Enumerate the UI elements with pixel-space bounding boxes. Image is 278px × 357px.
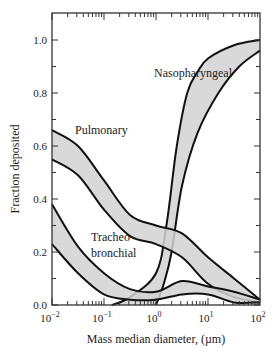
x-axis-label: Mass median diameter, (µm) — [87, 332, 225, 346]
annotation-tracheo: Tracheo- — [91, 230, 134, 244]
y-tick-label: 0.6 — [33, 140, 47, 152]
y-axis-label: Fraction deposited — [8, 125, 22, 214]
annotation-pulmonary: Pulmonary — [75, 123, 128, 137]
y-tick-label: 0.8 — [33, 87, 47, 99]
x-tick-label: 101 — [199, 310, 214, 324]
x-tick-label: 10−1 — [92, 310, 112, 324]
chart-svg: 0.00.20.40.60.81.010−210−1100101102 Mass… — [0, 0, 278, 357]
x-tick-label: 10−2 — [40, 310, 60, 324]
deposition-chart: 0.00.20.40.60.81.010−210−1100101102 Mass… — [0, 0, 278, 357]
annotation-nasopharyngeal: Nasopharyngeal — [154, 66, 233, 80]
y-tick-label: 1.0 — [33, 34, 47, 46]
x-tick-label: 100 — [147, 310, 162, 324]
y-tick-label: 0.4 — [33, 193, 47, 205]
x-tick-label: 102 — [251, 310, 266, 324]
annotation-bronchial: bronchial — [91, 246, 137, 260]
y-tick-label: 0.0 — [33, 299, 47, 311]
y-tick-label: 0.2 — [33, 246, 47, 258]
